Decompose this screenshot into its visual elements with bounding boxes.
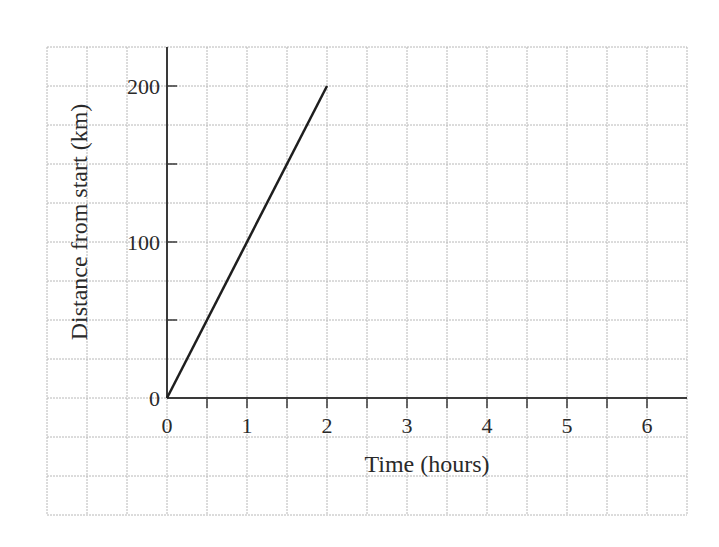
tick-labels: 01234560100200: [127, 74, 653, 438]
x-tick-label: 6: [642, 413, 653, 438]
distance-time-chart: 01234560100200 Time (hours) Distance fro…: [0, 0, 719, 547]
y-tick-label: 200: [127, 74, 160, 99]
x-axis-label: Time (hours): [364, 451, 489, 477]
x-tick-label: 5: [562, 413, 573, 438]
x-tick-label: 0: [162, 413, 173, 438]
x-tick-label: 4: [482, 413, 493, 438]
y-tick-label: 100: [127, 230, 160, 255]
x-tick-label: 3: [402, 413, 413, 438]
x-tick-label: 2: [322, 413, 333, 438]
grid: [47, 47, 687, 515]
x-tick-label: 1: [242, 413, 253, 438]
y-axis-label: Distance from start (km): [66, 104, 92, 341]
y-tick-label: 0: [149, 386, 160, 411]
